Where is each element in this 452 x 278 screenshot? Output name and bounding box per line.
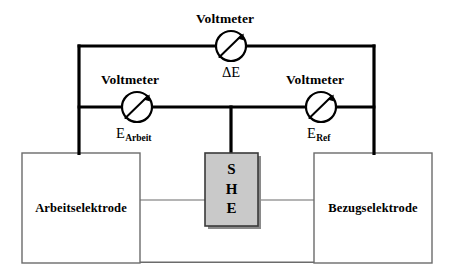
diagram-canvas: Voltmeter ΔE Voltmeter EArbeit Voltmeter…: [0, 0, 452, 278]
voltmeter-left[interactable]: [122, 92, 152, 122]
voltmeter-right-symbol-subscript: Ref: [316, 133, 330, 143]
voltmeter-right-symbol: ERef: [307, 126, 330, 141]
voltmeter-right-label: Voltmeter: [286, 73, 344, 87]
voltmeter-top-label: Voltmeter: [196, 12, 254, 26]
reference-electrode-label: Bezugselektrode: [322, 202, 424, 215]
she-block-body: [205, 153, 258, 226]
voltmeter-top-symbol: ΔE: [222, 65, 240, 80]
voltmeter-top-symbol-text: ΔE: [222, 64, 240, 80]
voltmeter-right-symbol-prefix: E: [307, 125, 316, 141]
she-block: [205, 153, 261, 229]
working-electrode-label: Arbeitselektrode: [30, 202, 132, 215]
voltmeter-left-symbol-prefix: E: [116, 125, 125, 141]
voltmeter-left-label: Voltmeter: [101, 73, 159, 87]
circuit-schematic: [0, 0, 452, 278]
voltmeter-left-symbol-subscript: Arbeit: [125, 133, 151, 143]
voltmeter-right[interactable]: [306, 92, 336, 122]
voltmeter-left-symbol: EArbeit: [116, 126, 151, 141]
voltmeter-top[interactable]: [216, 31, 246, 61]
